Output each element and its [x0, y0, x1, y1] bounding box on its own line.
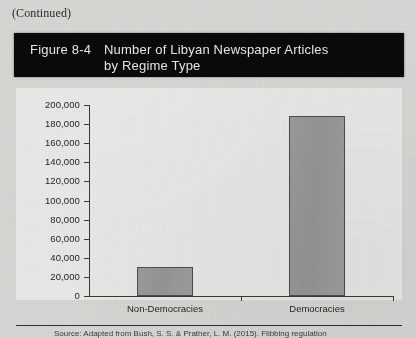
y-axis-tick-label: 60,000 [10, 233, 80, 244]
x-axis-tick [241, 296, 242, 301]
y-axis-tick-label: 200,000 [10, 99, 80, 110]
y-axis-line [89, 105, 90, 296]
footer-divider [16, 325, 402, 326]
y-axis-tick-label: 80,000 [10, 214, 80, 225]
x-axis-category-label: Non-Democracies [95, 303, 235, 314]
chart-plot-area: 020,00040,00060,00080,000100,000120,0001… [16, 88, 402, 300]
y-axis-tick [84, 105, 89, 106]
y-axis-tick [84, 201, 89, 202]
y-axis-tick [84, 162, 89, 163]
continued-note: (Continued) [12, 6, 71, 21]
y-axis-tick-label: 180,000 [10, 118, 80, 129]
y-axis-tick-label: 40,000 [10, 252, 80, 263]
y-axis-tick-label: 120,000 [10, 175, 80, 186]
x-axis-category-label: Democracies [247, 303, 387, 314]
y-axis-tick-label: 0 [10, 290, 80, 301]
y-axis-tick [84, 181, 89, 182]
y-axis-tick [84, 258, 89, 259]
y-axis-tick [84, 296, 89, 297]
y-axis-tick [84, 239, 89, 240]
source-note-clipped: Source: Adapted from Bush, S. S. & Prath… [16, 330, 402, 338]
y-axis-tick [84, 277, 89, 278]
y-axis-tick [84, 220, 89, 221]
y-axis-tick [84, 124, 89, 125]
bar-non-democracies [137, 267, 193, 296]
y-axis-tick-label: 20,000 [10, 271, 80, 282]
source-note-text: Source: Adapted from Bush, S. S. & Prath… [54, 330, 327, 338]
figure-title-line-1: Number of Libyan Newspaper Articles [104, 42, 329, 57]
y-axis-tick-label: 100,000 [10, 195, 80, 206]
y-axis-tick-label: 140,000 [10, 156, 80, 167]
bar-democracies [289, 116, 345, 296]
bar-chart: 020,00040,00060,00080,000100,000120,0001… [16, 88, 402, 300]
figure-title-line-2: by Regime Type [104, 58, 201, 73]
y-axis-tick-label: 160,000 [10, 137, 80, 148]
figure-title-banner: Figure 8-4 Number of Libyan Newspaper Ar… [14, 33, 404, 77]
y-axis-tick [84, 143, 89, 144]
x-axis-tick [393, 296, 394, 301]
figure-number-label: Figure 8-4 [30, 42, 91, 57]
